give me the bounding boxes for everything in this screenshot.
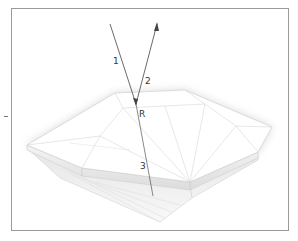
ray-2-arrowhead [154,22,159,31]
label-ray-2: 2 [145,76,151,86]
label-point-r: R [139,109,145,119]
label-ray-3: 3 [140,161,146,171]
label-ray-1: 1 [113,56,119,66]
gemstone-diagram: 1 2 R 3 [0,0,298,241]
